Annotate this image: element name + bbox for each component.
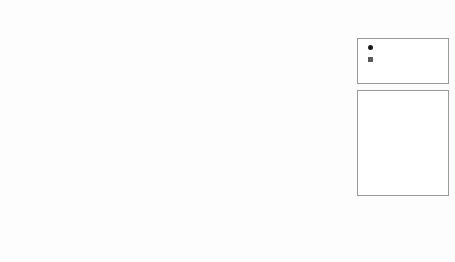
legend-item-significant xyxy=(358,54,448,66)
factor-table xyxy=(358,94,448,95)
legend-item-not-significant xyxy=(358,42,448,54)
column-header-factor xyxy=(358,94,399,95)
circle-marker-icon xyxy=(365,42,375,54)
factor-name-legend xyxy=(357,90,449,196)
square-marker-icon xyxy=(365,54,375,66)
effect-type-legend xyxy=(357,38,449,84)
factor-table-header-row xyxy=(358,94,448,95)
normal-plot-page xyxy=(0,0,455,262)
column-header-name xyxy=(399,94,448,95)
